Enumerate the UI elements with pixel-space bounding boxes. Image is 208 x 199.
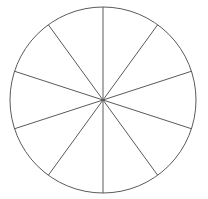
sector-divider-group <box>15 7 192 193</box>
circle-sector-svg <box>0 0 208 199</box>
circle-sector-diagram <box>0 0 208 199</box>
